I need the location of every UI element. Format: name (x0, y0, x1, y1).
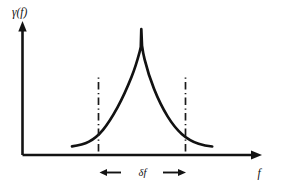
spectrum-curve-group (72, 29, 212, 146)
x-axis-arrowhead (251, 151, 262, 160)
y-axis-label: γ(f) (12, 6, 28, 19)
x-axis-label: f (257, 167, 262, 180)
linewidth-left-arrowhead (100, 169, 108, 176)
linewidth-right-arrowhead (178, 169, 186, 176)
y-axis-arrowhead (18, 21, 26, 32)
linewidth-label: δf (139, 167, 149, 178)
spectral-density-curve (72, 29, 212, 146)
spectral-lineshape-figure: γ(f) f δf (0, 0, 281, 189)
figure-canvas: γ(f) f δf (0, 0, 281, 189)
